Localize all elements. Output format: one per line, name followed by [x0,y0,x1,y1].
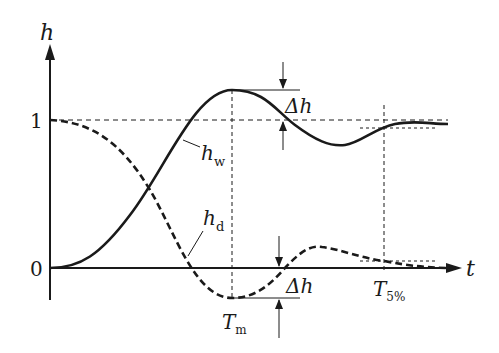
reference-lines [50,90,448,298]
h-w-leader [183,140,200,147]
curve-h-d [50,120,450,298]
axes [45,44,462,300]
h-d-label: hd [203,206,224,234]
y-axis-label: h [40,20,54,45]
t5-label: T5% [373,277,405,304]
y-axis-arrow-icon [45,44,55,60]
h-w-label: hw [201,141,225,169]
step-response-diagram: h t 1 0 hw hd Δh Δh Tm T5% [0,0,499,353]
y-tick-one: 1 [30,109,43,133]
h-d-leader [188,231,203,256]
curve-h-w [50,90,448,268]
y-tick-zero: 0 [30,257,43,281]
delta-h-bottom-label: Δh [285,274,313,298]
x-axis-label: t [466,256,475,281]
x-axis-arrow-icon [446,263,462,273]
delta-h-top-label: Δh [284,94,312,118]
tm-label: Tm [222,310,247,337]
